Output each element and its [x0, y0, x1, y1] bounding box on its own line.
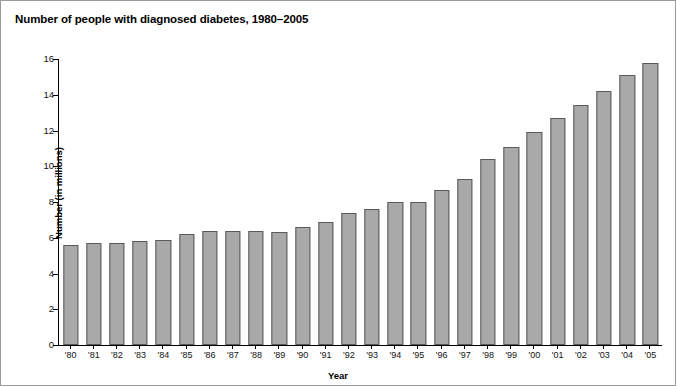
- bar-slot: [430, 59, 453, 345]
- bar-y85[interactable]: [179, 234, 194, 345]
- x-axis-tick-label: '88: [250, 351, 262, 360]
- bar-y90[interactable]: [295, 227, 310, 345]
- bar-slot: [592, 59, 615, 345]
- bar-slot: [453, 59, 476, 345]
- bar-slot: [268, 59, 291, 345]
- x-axis-tick-label: '94: [389, 351, 401, 360]
- bar-slot: [245, 59, 268, 345]
- x-axis-tick-label: '02: [575, 351, 587, 360]
- bar-slot: [407, 59, 430, 345]
- x-axis-tick-mark: [232, 345, 233, 349]
- x-axis-tick-label: '84: [157, 351, 169, 360]
- bar-slot: [152, 59, 175, 345]
- bar-y01[interactable]: [550, 118, 565, 345]
- x-axis-tick-label: '98: [482, 351, 494, 360]
- x-axis-tick-mark: [209, 345, 210, 349]
- bar-y03[interactable]: [596, 91, 611, 345]
- bar-y82[interactable]: [109, 243, 124, 345]
- bar-y80[interactable]: [63, 245, 78, 345]
- bar-slot: [82, 59, 105, 345]
- bar-slot: [337, 59, 360, 345]
- x-axis-tick-label: '81: [88, 351, 100, 360]
- x-axis-tick-mark: [533, 345, 534, 349]
- x-axis-tick-label: '00: [529, 351, 541, 360]
- bar-slot: [500, 59, 523, 345]
- bar-y81[interactable]: [86, 243, 101, 345]
- y-axis-tick-label: 8: [49, 197, 54, 207]
- bar-y92[interactable]: [341, 213, 356, 345]
- x-axis-tick-label: '92: [343, 351, 355, 360]
- x-axis-tick-label: '91: [320, 351, 332, 360]
- bar-y05[interactable]: [643, 63, 658, 345]
- x-axis-tick-mark: [603, 345, 604, 349]
- x-axis-tick-mark: [278, 345, 279, 349]
- bar-y04[interactable]: [620, 75, 635, 345]
- bar-y84[interactable]: [156, 240, 171, 345]
- x-axis-tick-mark: [626, 345, 627, 349]
- x-axis-tick-mark: [487, 345, 488, 349]
- bar-y97[interactable]: [457, 179, 472, 345]
- x-axis-tick-mark: [325, 345, 326, 349]
- x-axis-tick-mark: [371, 345, 372, 349]
- bar-slot: [384, 59, 407, 345]
- bar-y87[interactable]: [225, 231, 240, 345]
- bar-y83[interactable]: [133, 241, 148, 345]
- x-axis-tick-label: '83: [134, 351, 146, 360]
- x-axis-tick-mark: [302, 345, 303, 349]
- bar-y91[interactable]: [318, 222, 333, 345]
- x-axis-tick-mark: [255, 345, 256, 349]
- bar-y99[interactable]: [504, 147, 519, 345]
- chart-figure: Number of people with diagnosed diabetes…: [0, 0, 676, 386]
- y-axis-tick-label: 12: [43, 126, 54, 136]
- x-axis-tick-label: '97: [459, 351, 471, 360]
- x-axis-tick-mark: [186, 345, 187, 349]
- x-axis-tick-mark: [93, 345, 94, 349]
- bar-y95[interactable]: [411, 202, 426, 345]
- x-axis-tick-label: '03: [598, 351, 610, 360]
- bar-y94[interactable]: [388, 202, 403, 345]
- x-axis-tick-label: '89: [273, 351, 285, 360]
- x-axis-tick-mark: [70, 345, 71, 349]
- y-axis-tick-label: 6: [49, 233, 54, 243]
- bar-slot: [105, 59, 128, 345]
- x-axis-tick-label: '04: [621, 351, 633, 360]
- bar-slot: [476, 59, 499, 345]
- bar-y96[interactable]: [434, 190, 449, 346]
- x-axis-tick-mark: [649, 345, 650, 349]
- bar-y98[interactable]: [480, 159, 495, 345]
- bar-y89[interactable]: [272, 232, 287, 345]
- bar-slot: [569, 59, 592, 345]
- x-axis-label: Year: [1, 370, 675, 381]
- plot-area: 0246810121416 '80'81'82'83'84'85'86'87'8…: [58, 59, 662, 345]
- bar-slot: [546, 59, 569, 345]
- bar-slot: [639, 59, 662, 345]
- bar-slot: [198, 59, 221, 345]
- x-axis-tick-label: '99: [505, 351, 517, 360]
- bar-series: [59, 59, 662, 345]
- bar-y93[interactable]: [364, 209, 379, 345]
- x-axis-tick-label: '01: [552, 351, 564, 360]
- x-axis-tick-label: '87: [227, 351, 239, 360]
- x-axis-tick-mark: [417, 345, 418, 349]
- bar-slot: [314, 59, 337, 345]
- x-axis-tick-mark: [139, 345, 140, 349]
- x-axis-tick-label: '86: [204, 351, 216, 360]
- bar-slot: [175, 59, 198, 345]
- y-axis-tick-label: 4: [49, 269, 54, 279]
- bar-y00[interactable]: [527, 132, 542, 345]
- x-axis-line: [58, 345, 662, 346]
- x-axis-tick-label: '82: [111, 351, 123, 360]
- bar-slot: [221, 59, 244, 345]
- y-axis-tick-label: 2: [49, 305, 54, 315]
- x-axis-tick-mark: [557, 345, 558, 349]
- bar-y02[interactable]: [573, 105, 588, 345]
- x-axis-tick-label: '96: [436, 351, 448, 360]
- bar-y86[interactable]: [202, 231, 217, 345]
- x-axis-tick-mark: [116, 345, 117, 349]
- bar-slot: [291, 59, 314, 345]
- x-axis-tick-mark: [441, 345, 442, 349]
- x-axis-tick-mark: [348, 345, 349, 349]
- x-axis-tick-label: '85: [181, 351, 193, 360]
- bar-y88[interactable]: [248, 231, 263, 345]
- y-axis-tick-label: 16: [43, 54, 54, 64]
